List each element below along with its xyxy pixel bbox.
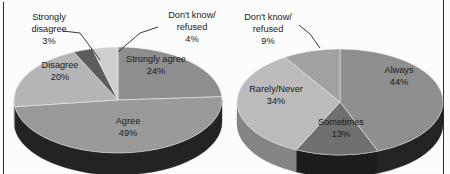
leader-line-dont-know-right [299, 25, 320, 48]
label-dont-know-right-line1: Don't know/ [244, 12, 292, 22]
label-agree: Agree [116, 116, 141, 126]
figure-canvas: Stronglydisagree3%Don't know/refused4%Di… [0, 0, 450, 174]
label-dont-know-left-line2: refused [177, 22, 208, 32]
label-strongly-disagree-line2: disagree [31, 24, 66, 34]
label-disagree: Disagree [42, 60, 79, 70]
label-dont-know-right-line2: refused [253, 24, 284, 34]
label-sometimes: Sometimes [318, 117, 364, 127]
label-sometimes-pct: 13% [332, 129, 350, 139]
label-dont-know-left-line1: Don't know/ [168, 10, 216, 20]
label-agree-pct: 49% [119, 128, 137, 138]
label-disagree-pct: 20% [51, 72, 69, 82]
label-always-pct: 44% [390, 77, 408, 87]
label-always: Always [384, 65, 414, 75]
pie-charts-figure: Stronglydisagree3%Don't know/refused4%Di… [0, 0, 450, 174]
label-strongly-disagree-pct: 3% [42, 36, 55, 46]
label-rarely-never: Rarely/Never [249, 84, 303, 94]
label-dont-know-left-pct: 4% [185, 34, 198, 44]
label-strongly-disagree-line1: Strongly [32, 12, 66, 22]
label-strongly-agree: Strongly agree [126, 54, 186, 64]
label-dont-know-right-pct: 9% [261, 36, 274, 46]
label-rarely-never-pct: 34% [267, 96, 285, 106]
label-strongly-agree-pct: 24% [147, 66, 165, 76]
